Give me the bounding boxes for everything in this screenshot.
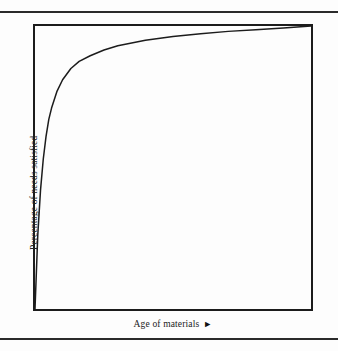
curve-plot (35, 26, 311, 309)
x-axis-label: Age of materials (134, 319, 200, 329)
figure-page: · · · · · Percentage of needs satisfied … (0, 0, 338, 351)
plot-frame (33, 24, 313, 311)
cut-off-running-text: · · · · · (0, 0, 338, 3)
right-arrow-icon: ► (203, 320, 212, 329)
needs-satisfied-curve (35, 26, 311, 309)
horizontal-rule-bottom (0, 338, 338, 340)
y-axis-label: Percentage of needs satisfied (26, 70, 42, 250)
x-axis-label-group: Age of materials► (33, 318, 313, 331)
horizontal-rule-top (0, 11, 338, 13)
